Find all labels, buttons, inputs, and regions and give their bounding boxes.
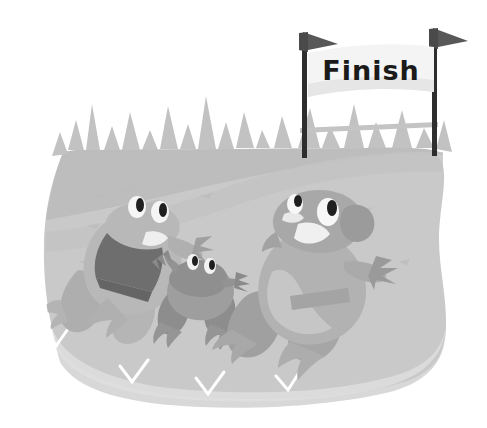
finish-crossbar (300, 122, 438, 133)
right-flag-knot (429, 28, 438, 49)
frog-right-back-spot (340, 205, 374, 242)
frog-small-pupil-right (209, 260, 215, 270)
frog-race-illustration: Finish (0, 0, 487, 428)
left-pennant-flag-icon (303, 32, 338, 51)
frog-left-pupil-right (159, 203, 167, 217)
frog-small-pupil-left (192, 256, 198, 266)
frog-right-pupil-left (294, 195, 302, 207)
illustration-canvas: Finish (0, 0, 487, 428)
frog-right-pupil-right (327, 200, 337, 216)
left-flag-knot (299, 32, 308, 52)
right-pennant-flag-icon (433, 28, 468, 48)
finish-banner-label: Finish (322, 55, 419, 86)
left-finish-pole (302, 36, 307, 158)
frog-left-pupil-left (136, 198, 144, 212)
